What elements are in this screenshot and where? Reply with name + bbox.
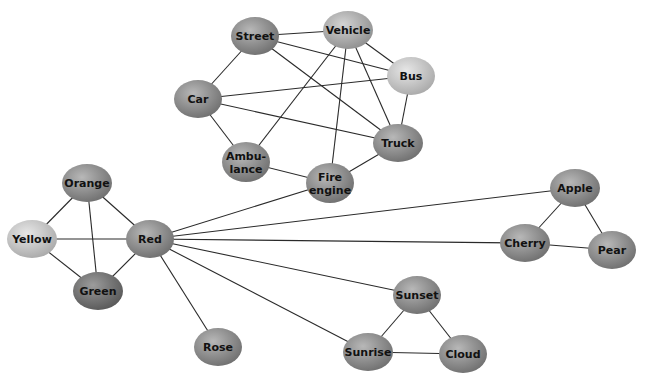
node-rose: Rose [194,328,242,366]
node-sunrise: Sunrise [343,333,393,371]
node-vehicle: Vehicle [323,11,373,49]
node-cherry: Cherry [500,224,550,262]
edge-car-bus [198,76,411,99]
node-label: Pear [598,244,627,257]
node-red: Red [126,220,174,258]
node-label: lance [229,163,262,176]
node-label: Truck [381,137,415,150]
node-car: Car [174,80,222,118]
node-sunset: Sunset [393,276,441,314]
node-label: Street [236,30,275,43]
edge-vehicle-fire-engine [330,30,348,183]
node-label: Vehicle [326,24,371,37]
node-label: Sunrise [345,346,392,359]
node-apple: Apple [550,169,600,207]
semantic-network-diagram: StreetVehicleBusCarTruckAmbu-lanceFireen… [0,0,652,379]
node-orange: Orange [62,164,112,202]
node-label: Apple [557,182,593,195]
node-label: Cherry [504,237,545,250]
node-ambulance: Ambu-lance [222,142,270,182]
edge-red-cherry [150,239,525,243]
node-truck: Truck [373,124,423,162]
node-label: Fire [318,171,342,184]
node-yellow: Yellow [7,220,57,258]
node-cloud: Cloud [439,335,487,373]
node-fire-engine: Fireengine [306,163,354,203]
node-label: Cloud [445,348,480,361]
edge-red-fire-engine [150,183,330,239]
edge-red-sunrise [150,239,368,352]
node-bus: Bus [387,57,435,95]
node-label: Bus [400,70,423,83]
node-label: Car [188,93,209,106]
node-label: Yellow [11,233,52,246]
node-label: Red [138,233,162,246]
node-label: Rose [203,341,233,354]
node-label: Orange [64,177,109,190]
node-label: Ambu- [226,150,266,163]
node-green: Green [73,272,123,310]
node-label: Green [79,285,116,298]
node-label: engine [309,184,351,197]
edge-red-sunset [150,239,417,295]
node-label: Sunset [396,289,439,302]
node-street: Street [231,17,279,55]
node-pear: Pear [588,231,636,269]
